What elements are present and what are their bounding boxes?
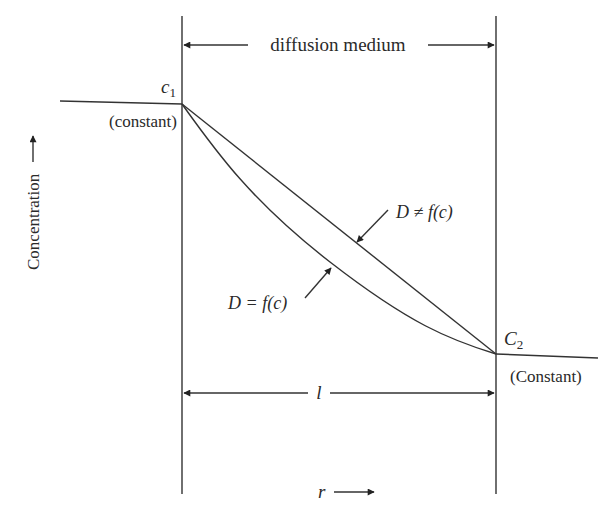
c1-label: c1 <box>161 76 176 100</box>
y-axis-label-group: Concentration <box>24 173 43 270</box>
c1-constant-note: (constant) <box>109 112 177 131</box>
nonlinear-annotation-arrow <box>305 268 331 298</box>
length-label: l <box>316 382 321 403</box>
linear-annotation-arrow <box>357 210 388 242</box>
diffusion-diagram: diffusion medium l c1 (constant) C2 (Con… <box>0 0 616 515</box>
c2-label: C2 <box>504 328 523 352</box>
c2-constant-note: (Constant) <box>510 367 582 386</box>
diffusion-medium-label: diffusion medium <box>270 34 406 55</box>
x-axis-label: r <box>318 481 326 502</box>
right-outside-line <box>496 354 598 358</box>
y-axis-label: Concentration <box>24 173 43 270</box>
nonlinear-annotation-label: D = f(c) <box>227 293 287 314</box>
left-outside-line <box>60 101 182 104</box>
linear-profile-curve <box>182 104 496 354</box>
linear-annotation-label: D ≠ f(c) <box>395 202 453 223</box>
